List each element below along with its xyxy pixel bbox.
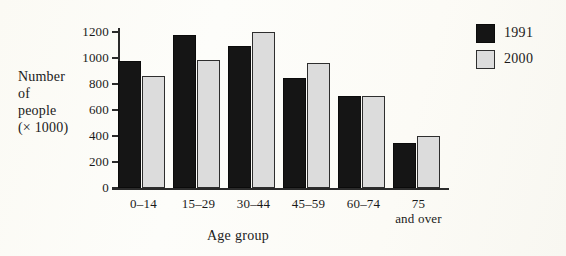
y-axis-title-line: people: [18, 102, 100, 119]
bar-1991-60–74: [338, 96, 361, 188]
x-axis-line: [112, 188, 449, 190]
legend-swatch-1991: [476, 24, 495, 43]
y-axis-title: Numberofpeople(× 1000): [18, 68, 100, 136]
bar-1991-0–14: [118, 61, 141, 188]
legend-item-2000: 2000: [476, 46, 533, 72]
bar-2000-15–29: [197, 60, 220, 188]
bar-group: [228, 32, 275, 188]
x-category-label: 75and over: [376, 196, 462, 226]
bar-2000-60–74: [362, 96, 385, 188]
legend-label-1991: 1991: [504, 25, 533, 41]
y-tick-label-1200: 1200: [82, 25, 109, 38]
plot-area: [118, 32, 450, 188]
y-axis-title-line: Number: [18, 68, 100, 85]
bar-group: [118, 32, 165, 188]
x-category-label-line1: 0–14: [130, 196, 157, 211]
bar-1991-15–29: [173, 35, 196, 188]
y-axis-title-line: (× 1000): [18, 119, 100, 136]
x-axis-title-text: Age group: [207, 228, 359, 243]
bar-group: [283, 32, 330, 188]
bar-2000-30–44: [252, 32, 275, 188]
bar-2000-0–14: [142, 76, 165, 188]
legend-label-2000: 2000: [504, 51, 533, 67]
legend-item-1991: 1991: [476, 20, 533, 46]
bar-2000-75-and-over: [417, 136, 440, 188]
bar-1991-30–44: [228, 46, 251, 188]
chart-legend: 1991 2000: [476, 20, 533, 72]
y-tick-label-200: 200: [89, 155, 109, 168]
y-axis-title-line: of: [18, 85, 100, 102]
bar-group: [338, 32, 385, 188]
bar-1991-75-and-over: [393, 143, 416, 189]
x-category-label-line1: 75: [412, 196, 425, 211]
bar-1991-45–59: [283, 78, 306, 188]
x-category-label-line2: and over: [376, 211, 462, 226]
bar-group: [393, 32, 440, 188]
y-tick-label-1000: 1000: [82, 51, 109, 64]
bar-2000-45–59: [307, 63, 330, 188]
bar-group: [173, 32, 220, 188]
x-axis-title: Age group: [0, 228, 566, 244]
legend-swatch-2000: [476, 50, 495, 69]
bar-chart-figure: 020040060080010001200 0–1415–2930–4445–5…: [0, 0, 566, 256]
y-tick-label-0: 0: [102, 181, 109, 194]
